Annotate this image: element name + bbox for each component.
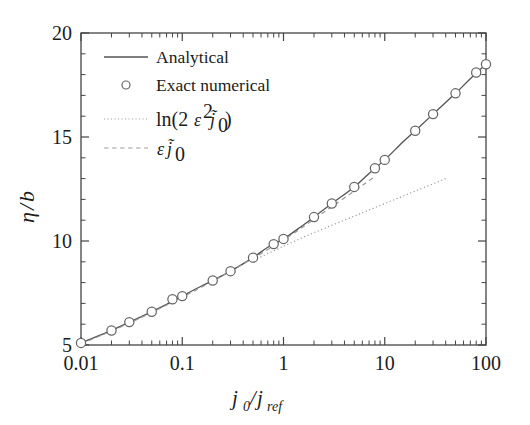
data-point-marker bbox=[248, 253, 257, 262]
data-point-marker bbox=[147, 307, 156, 316]
y-axis-label: η / b bbox=[14, 191, 39, 223]
data-point-marker bbox=[168, 295, 177, 304]
data-point-marker bbox=[428, 110, 437, 119]
data-point-marker bbox=[380, 155, 389, 164]
y-tick-label: 15 bbox=[52, 126, 72, 148]
data-point-marker bbox=[350, 182, 359, 191]
y-tick-label: 10 bbox=[52, 230, 72, 252]
legend-label-exact-numerical: Exact numerical bbox=[156, 75, 270, 95]
data-point-marker bbox=[76, 338, 85, 347]
data-point-marker bbox=[472, 68, 481, 77]
x-axis-label-den-sub: ref bbox=[267, 399, 284, 414]
data-point-marker bbox=[178, 292, 187, 301]
x-tick-label: 100 bbox=[471, 352, 501, 374]
svg-text:0: 0 bbox=[175, 143, 185, 165]
legend-label-analytical: Analytical bbox=[156, 47, 229, 67]
x-axis-label-num-sub: 0 bbox=[243, 399, 250, 414]
svg-text:ε: ε bbox=[157, 139, 165, 159]
data-point-marker bbox=[269, 240, 278, 249]
x-tick-label: 10 bbox=[375, 352, 395, 374]
y-axis-label-b: b bbox=[14, 191, 39, 202]
figure-container: 0.010.1110100 5101520 j 0 / j ref η / b … bbox=[0, 0, 530, 425]
svg-text:): ) bbox=[225, 108, 232, 131]
data-point-marker bbox=[309, 212, 318, 221]
data-point-marker bbox=[370, 164, 379, 173]
svg-text:ln(2: ln(2 bbox=[156, 108, 188, 131]
x-tick-label: 0.1 bbox=[170, 352, 195, 374]
y-axis-label-eta: η bbox=[14, 212, 39, 223]
data-point-marker bbox=[208, 276, 217, 285]
data-point-marker bbox=[451, 89, 460, 98]
y-tick-label: 20 bbox=[52, 22, 72, 44]
svg-text:ε: ε bbox=[194, 110, 202, 130]
x-tick-label: 1 bbox=[279, 352, 289, 374]
data-point-marker bbox=[107, 326, 116, 335]
y-tick-label: 5 bbox=[62, 334, 72, 356]
chart-svg: 0.010.1110100 5101520 j 0 / j ref η / b … bbox=[0, 0, 530, 425]
data-point-marker bbox=[411, 126, 420, 135]
data-point-marker bbox=[327, 199, 336, 208]
data-point-marker bbox=[125, 318, 134, 327]
data-point-marker bbox=[226, 267, 235, 276]
data-point-marker bbox=[481, 60, 490, 69]
data-point-marker bbox=[279, 234, 288, 243]
